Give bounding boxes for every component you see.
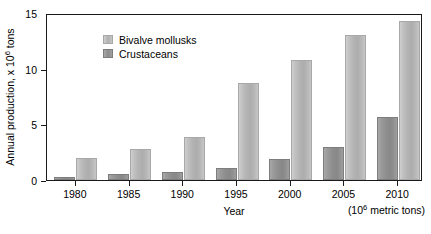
x-axis-tick-mark bbox=[343, 181, 344, 186]
bar-crustaceans bbox=[269, 159, 290, 180]
y-axis-label-base: Annual production, x 10 bbox=[4, 55, 16, 165]
bar-group bbox=[323, 15, 366, 180]
y-axis-tick-label: 5 bbox=[17, 120, 37, 130]
bar-bivalve-mollusks bbox=[76, 158, 97, 180]
bar-crustaceans bbox=[377, 117, 398, 180]
bar-crustaceans bbox=[162, 172, 183, 180]
x-axis-tick-label: 2000 bbox=[268, 188, 312, 201]
legend-label-crustaceans: Crustaceans bbox=[119, 48, 178, 60]
x-axis-tick-mark bbox=[236, 181, 237, 186]
x-axis-tick-mark bbox=[290, 181, 291, 186]
bar-bivalve-mollusks bbox=[345, 35, 366, 180]
bar-crustaceans bbox=[54, 177, 75, 180]
x-axis-tick-label: 2005 bbox=[321, 188, 365, 201]
x-axis-tick-mark bbox=[75, 181, 76, 186]
x-axis-tick-label: 1990 bbox=[160, 188, 204, 201]
legend-label-bivalve-mollusks: Bivalve mollusks bbox=[119, 34, 197, 46]
x-axis-tick-label: 1995 bbox=[214, 188, 258, 201]
x-axis-tick-label: 1985 bbox=[107, 188, 151, 201]
bar-chart-figure: Annual production, x 106 tons 051015 Biv… bbox=[0, 0, 431, 234]
legend-item-bivalve-mollusks: Bivalve mollusks bbox=[103, 33, 197, 46]
bar-bivalve-mollusks bbox=[238, 83, 259, 180]
units-note-tail: metric tons) bbox=[367, 204, 425, 216]
y-axis-tick-label: 10 bbox=[17, 65, 37, 75]
bar-bivalve-mollusks bbox=[291, 60, 312, 180]
x-axis-tick-mark bbox=[397, 181, 398, 186]
y-axis-label-tail: tons bbox=[4, 28, 16, 51]
x-axis-tick-marks bbox=[46, 181, 422, 187]
bar-bivalve-mollusks bbox=[184, 137, 205, 180]
x-axis-tick-mark bbox=[129, 181, 130, 186]
bar-group bbox=[54, 15, 97, 180]
y-axis-tick-label: 15 bbox=[17, 9, 37, 19]
y-axis-label: Annual production, x 106 tons bbox=[3, 4, 17, 190]
bar-bivalve-mollusks bbox=[399, 21, 420, 180]
bar-group bbox=[269, 15, 312, 180]
units-note: (106 metric tons) bbox=[348, 204, 425, 216]
legend-swatch-crustaceans bbox=[103, 49, 113, 58]
bar-crustaceans bbox=[108, 174, 129, 180]
bar-crustaceans bbox=[323, 147, 344, 180]
bar-bivalve-mollusks bbox=[130, 149, 151, 180]
y-axis-tick-labels: 051015 bbox=[17, 0, 37, 234]
legend: Bivalve mollusks Crustaceans bbox=[103, 33, 197, 61]
legend-item-crustaceans: Crustaceans bbox=[103, 47, 197, 60]
legend-swatch-bivalve-mollusks bbox=[103, 35, 113, 44]
x-axis-tick-labels: 1980198519901995200020052010 bbox=[46, 188, 422, 202]
plot-area: Bivalve mollusks Crustaceans bbox=[46, 14, 422, 181]
bar-crustaceans bbox=[216, 168, 237, 180]
x-axis-tick-mark bbox=[182, 181, 183, 186]
units-note-base: (10 bbox=[348, 204, 363, 216]
bar-group bbox=[216, 15, 259, 180]
bar-group bbox=[377, 15, 420, 180]
y-axis-tick-label: 0 bbox=[17, 176, 37, 186]
y-axis-label-exponent: 6 bbox=[3, 51, 12, 55]
x-axis-tick-label: 2010 bbox=[375, 188, 419, 201]
x-axis-tick-label: 1980 bbox=[53, 188, 97, 201]
